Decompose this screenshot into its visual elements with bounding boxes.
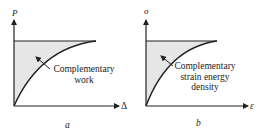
panel-b-caption: b [196, 118, 201, 128]
panel-b-y-axis-label: σ [144, 6, 148, 16]
panel-b-annotation-line-2: strain energy [171, 72, 239, 83]
panel-a-graph [14, 20, 119, 106]
panel-b-x-axis-label: ε [250, 101, 254, 111]
panel-b-annotation-line-1: Complementary [171, 61, 239, 72]
panel-a-caption: a [65, 120, 70, 130]
panel-b-annotation-line-3: density [171, 82, 239, 93]
panel-a-annotation-line-1: Complementary [51, 64, 117, 75]
panel-a-annotation: Complementary work [51, 64, 117, 85]
panel-b-annotation: Complementary strain energy density [171, 61, 239, 93]
panel-a-y-axis-label: P [12, 8, 18, 18]
panel-a-annotation-line-2: work [51, 75, 117, 86]
panel-a-x-axis-label: Δ [121, 101, 127, 111]
